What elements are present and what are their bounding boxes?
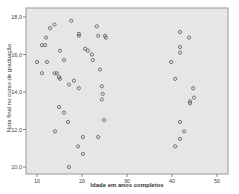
- y-axis: 10,012,014,016,018,0: [11, 14, 26, 170]
- y-axis-title: Nota final no curso de graduação: [6, 23, 12, 153]
- y-tick-label: 10,0: [11, 164, 22, 170]
- y-tick-label: 12,0: [11, 127, 22, 133]
- y-tick-label: 14,0: [11, 89, 22, 95]
- y-tick-label: 16,0: [11, 52, 22, 58]
- y-tick-label: 18,0: [11, 14, 22, 20]
- plot-area: [26, 8, 228, 174]
- plot-svg: 10,012,014,016,018,0 1020304050: [0, 0, 239, 194]
- x-axis-title: Idade em anos completos: [26, 182, 228, 188]
